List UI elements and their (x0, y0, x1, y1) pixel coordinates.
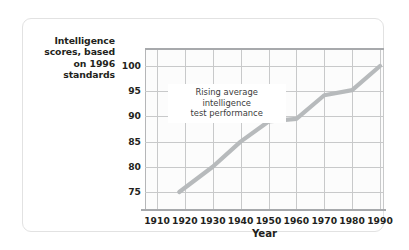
y-axis-tick-85: 85 (117, 136, 141, 147)
y-axis-tick-90: 90 (117, 110, 141, 121)
annotation-callout: Rising average intelligence test perform… (168, 84, 286, 123)
series-line-chart (145, 48, 384, 210)
y-axis-tick-80: 80 (117, 161, 141, 172)
x-axis-line (141, 209, 386, 211)
annotation-line-2: test performance (172, 108, 282, 119)
x-axis-tick-labels: 191019201930194019501960197019801990 (23, 215, 409, 229)
y-axis-title-line-4: standards (31, 69, 115, 80)
plot-area: Rising average intelligence test perform… (145, 48, 384, 210)
y-axis-title-line-2: scores, based (31, 46, 115, 57)
y-axis-title-line-3: on 1996 (31, 58, 115, 69)
x-axis-tick-1990: 1990 (363, 215, 397, 226)
y-axis-tick-75: 75 (117, 186, 141, 197)
figure-card: Intelligence scores, based on 1996 stand… (22, 18, 384, 232)
annotation-line-1: Rising average intelligence (172, 87, 282, 108)
y-axis-title: Intelligence scores, based on 1996 stand… (31, 35, 115, 81)
y-axis-title-line-1: Intelligence (31, 35, 115, 46)
y-axis-tick-100: 100 (117, 60, 141, 71)
x-axis-title: Year (145, 228, 384, 239)
y-axis-tick-95: 95 (117, 85, 141, 96)
